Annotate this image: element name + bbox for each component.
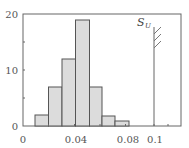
- x-tick-label-0.08: 0.08: [117, 134, 139, 145]
- bar: [62, 59, 76, 126]
- bars: [35, 20, 129, 126]
- histogram-chart: 20 10 0 0 0.04 0.08 0.1 S U: [0, 0, 189, 148]
- limit-label: S: [137, 16, 145, 29]
- limit-line-su: S U: [137, 16, 161, 126]
- x-tick-label-0.1: 0.1: [147, 134, 163, 145]
- limit-label-subscript: U: [145, 22, 152, 30]
- bar: [102, 116, 115, 126]
- bar: [49, 87, 63, 126]
- hatch-marks-icon: [154, 27, 161, 48]
- y-tick-label-20: 20: [5, 9, 18, 20]
- bar: [90, 87, 103, 126]
- bar: [115, 121, 129, 126]
- x-tick-label-0: 0: [20, 134, 26, 145]
- bar: [35, 115, 49, 126]
- x-tick-label-0.04: 0.04: [65, 134, 87, 145]
- bar: [76, 20, 90, 126]
- y-tick-label-10: 10: [5, 65, 18, 76]
- y-tick-label-0: 0: [12, 121, 18, 132]
